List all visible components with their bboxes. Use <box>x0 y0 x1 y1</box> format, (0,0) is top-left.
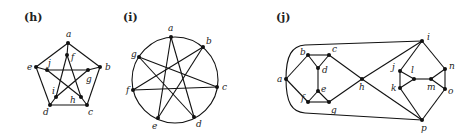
vertex-label-c: c <box>88 107 93 117</box>
edge-g-i <box>56 70 88 97</box>
vertex-f <box>306 100 310 104</box>
vertex-label-a: a <box>168 23 173 33</box>
vertex-label-d: d <box>196 119 202 129</box>
vertex-label-k: k <box>391 83 396 93</box>
edge-b-c <box>87 67 100 105</box>
vertex-b <box>306 53 310 57</box>
edge-m-n <box>431 69 445 79</box>
vertex-label-b: b <box>300 47 306 57</box>
graph-j: (j)abcdefghijklmnop <box>276 11 455 133</box>
vertex-j <box>398 69 402 73</box>
edge-d-e <box>36 67 50 105</box>
panel-label-j: (j) <box>276 11 290 24</box>
vertex-g <box>327 100 331 104</box>
vertex-e <box>34 65 38 69</box>
vertex-j <box>45 68 49 72</box>
graph-figure: (h)abcdefghij (i)abcdefg (j)abcdefghijkl… <box>0 0 474 136</box>
edge-i-n <box>422 41 445 69</box>
vertex-e <box>156 116 160 120</box>
vertex-label-f: f <box>125 85 131 95</box>
graph-h-petersen: (h)abcdefghij <box>24 11 111 117</box>
edge-b-e <box>158 47 203 118</box>
vertex-label-a: a <box>66 29 71 39</box>
panel-label-i: (i) <box>123 11 138 24</box>
vertex-n <box>443 67 447 71</box>
edge-a-b <box>286 55 308 79</box>
vertex-label-g: g <box>86 74 92 84</box>
edge-b-d <box>308 55 318 68</box>
edge-g-h <box>329 79 362 102</box>
edge-e-f <box>308 91 318 102</box>
vertex-label-o: o <box>448 86 454 96</box>
vertex-g <box>137 55 141 59</box>
edge-p-k <box>400 88 422 120</box>
vertex-o <box>443 87 447 91</box>
vertex-label-e: e <box>152 121 157 131</box>
edge-f-i <box>56 55 67 97</box>
vertex-label-m: m <box>427 82 436 92</box>
vertex-label-l: l <box>411 65 414 75</box>
edge-a-f <box>286 79 308 102</box>
vertex-label-b: b <box>105 62 111 72</box>
vertex-f <box>65 53 69 57</box>
vertex-label-e: e <box>27 62 32 72</box>
vertex-a <box>169 35 173 39</box>
vertex-h <box>79 95 83 99</box>
vertex-label-g: g <box>131 49 137 59</box>
vertex-label-f: f <box>70 52 76 62</box>
vertex-label-b: b <box>206 36 212 46</box>
vertex-label-f: f <box>300 93 306 103</box>
vertex-label-d: d <box>322 65 328 75</box>
edge-c-h <box>329 55 362 79</box>
vertex-h <box>360 77 364 81</box>
vertex-label-a: a <box>277 74 282 84</box>
edge-c-f <box>133 87 217 90</box>
panel-label-h: (h) <box>24 11 42 24</box>
vertex-label-c: c <box>332 44 337 54</box>
vertex-i <box>420 39 424 43</box>
vertex-label-d: d <box>43 107 49 117</box>
edge-p-o <box>422 89 445 120</box>
vertex-b <box>201 45 205 49</box>
vertex-e <box>316 89 320 93</box>
vertex-label-g: g <box>331 105 337 115</box>
edge-e-a <box>158 37 171 118</box>
vertex-a <box>284 77 288 81</box>
vertex-label-e: e <box>321 84 326 94</box>
vertex-m <box>429 77 433 81</box>
edge-k-l <box>400 79 414 88</box>
vertex-p <box>420 118 424 122</box>
vertex-a <box>66 41 70 45</box>
vertex-label-n: n <box>449 61 455 71</box>
vertex-label-i: i <box>52 86 55 96</box>
vertex-l <box>412 77 416 81</box>
vertex-g <box>86 68 90 72</box>
vertex-k <box>398 86 402 90</box>
vertex-label-p: p <box>421 123 427 133</box>
vertex-c <box>215 85 219 89</box>
vertex-label-i: i <box>427 32 430 42</box>
edge-e-a <box>36 43 68 67</box>
vertex-d <box>316 66 320 70</box>
vertex-c <box>327 53 331 57</box>
vertex-label-h: h <box>359 82 365 92</box>
vertex-label-c: c <box>222 82 227 92</box>
vertex-label-h: h <box>70 95 76 105</box>
graph-i-heptagram: (i)abcdefg <box>123 11 227 131</box>
vertex-f <box>131 88 135 92</box>
vertex-label-j: j <box>390 62 395 72</box>
vertex-b <box>98 65 102 69</box>
